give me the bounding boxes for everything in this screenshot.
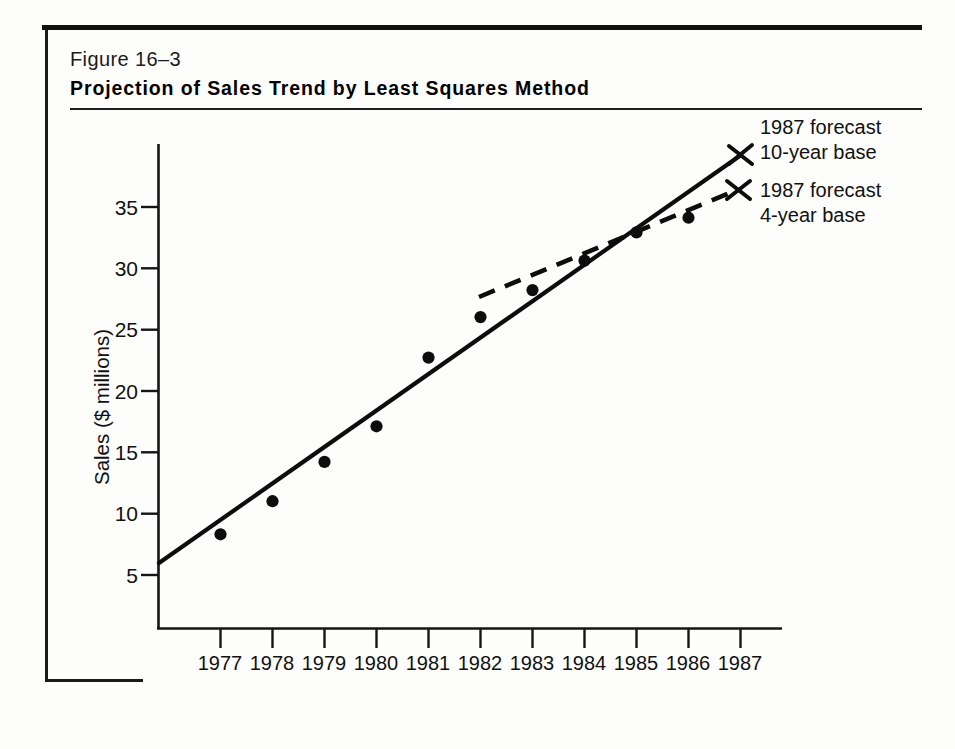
data-point xyxy=(370,420,382,432)
x-tick-label: 1986 xyxy=(658,653,718,673)
x-tick-label: 1983 xyxy=(502,653,562,673)
x-tick-label: 1984 xyxy=(554,653,614,673)
x-tick-label: 1977 xyxy=(190,653,250,673)
data-point-group xyxy=(214,212,694,541)
trend-line-4-year-base xyxy=(479,190,737,297)
annotation-4-year-forecast: 1987 forecast 4-year base xyxy=(760,178,881,228)
annotation-10-year-line1: 1987 forecast xyxy=(760,115,881,140)
x-tick-label: 1985 xyxy=(606,653,666,673)
x-tick-label: 1987 xyxy=(710,653,770,673)
x-tick-label: 1981 xyxy=(398,653,458,673)
x-tick-label: 1978 xyxy=(242,653,302,673)
figure-container: Figure 16–3 Projection of Sales Trend by… xyxy=(0,0,955,749)
y-axis-ticks xyxy=(141,207,158,575)
data-point xyxy=(682,212,694,224)
annotation-4-year-line1: 1987 forecast xyxy=(760,178,881,203)
data-point xyxy=(422,352,434,364)
x-axis-ticks xyxy=(221,629,741,648)
chart-svg xyxy=(0,0,955,749)
annotation-10-year-line2: 10-year base xyxy=(760,140,881,165)
x-tick-label: 1980 xyxy=(346,653,406,673)
data-point xyxy=(214,528,226,540)
x-tick-label: 1979 xyxy=(294,653,354,673)
y-tick-label: 30 xyxy=(92,258,138,279)
trend-line-10-year-base xyxy=(159,155,741,563)
chart-plot-area: 35 30 25 20 15 10 5 1977 1978 1979 1980 … xyxy=(0,0,955,749)
forecast-marker-4-year xyxy=(727,181,750,199)
data-point xyxy=(474,311,486,323)
y-axis-title: Sales ($ millions) xyxy=(90,277,114,537)
y-tick-label: 35 xyxy=(92,197,138,218)
annotation-10-year-forecast: 1987 forecast 10-year base xyxy=(760,115,881,165)
forecast-marker-10-year xyxy=(729,145,752,164)
data-point xyxy=(526,284,538,296)
data-point xyxy=(630,226,642,238)
y-tick-label: 5 xyxy=(92,565,138,586)
data-point xyxy=(578,255,590,267)
data-point xyxy=(266,495,278,507)
data-point xyxy=(318,456,330,468)
x-tick-label: 1982 xyxy=(450,653,510,673)
annotation-4-year-line2: 4-year base xyxy=(760,203,881,228)
